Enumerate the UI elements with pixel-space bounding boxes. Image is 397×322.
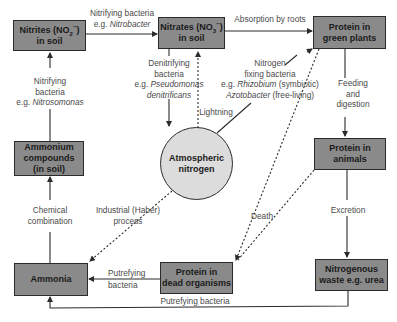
node-protein-dead-organisms: Protein in dead organisms — [160, 262, 233, 294]
node-nitrates: Nitrates (NO3−) in soil — [158, 17, 225, 49]
node-protein-animals: Protein in animals — [314, 138, 386, 170]
label-excretion: Excretion — [326, 205, 370, 216]
label-industrial-haber-process: Industrial (Haber) process — [90, 205, 166, 226]
node-nitrogenous-waste: Nitrogenous waste e.g. urea — [315, 259, 388, 291]
label-nitrogen-fixing-bacteria: Nitrogen fixing bacteria e.g. Rhizobium … — [218, 58, 322, 100]
label-chemical-combination: Chemical combination — [24, 205, 76, 226]
arrow-fixing-to-plants — [307, 49, 312, 52]
label-nitrifying-nitrosomonas: Nitrifying bacteria e.g. Nitrosomonas — [12, 76, 88, 108]
node-ammonium-compounds: Ammonium compounds (in soil) — [14, 141, 84, 176]
label-putrefying-bacteria-bottom: Putrefying bacteria — [155, 296, 235, 307]
arrow-industrial-to-ammonia — [90, 191, 172, 261]
node-nitrites: Nitrites (NO2−) in soil — [13, 20, 86, 51]
label-feeding-digestion: Feeding and digestion — [328, 78, 378, 110]
node-ammonia: Ammonia — [14, 263, 88, 296]
label-death: Death — [247, 211, 277, 222]
node-atmospheric-nitrogen: Atmospheric nitrogen — [160, 127, 233, 200]
label-denitrifying-bacteria: Denitrifying bacteria e.g. Pseudomonas d… — [130, 58, 208, 100]
label-absorption-by-roots: Absorption by roots — [230, 14, 310, 25]
label-lightning: Lightning — [196, 107, 236, 118]
label-putrefying-bacteria-top: Putrefying bacteria — [108, 267, 158, 291]
label-nitrifying-nitrobacter: Nitrifying bacteria e.g. Nitrobacter — [85, 8, 159, 29]
node-protein-green-plants: Protein in green plants — [313, 16, 386, 49]
